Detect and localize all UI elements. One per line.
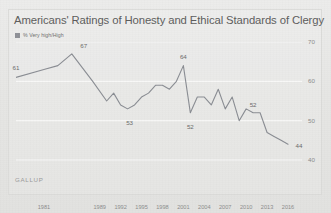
- data-point-label: 61: [13, 64, 20, 71]
- x-axis-tick-label: 2016: [282, 204, 294, 210]
- y-axis-tick-label: 60: [308, 77, 315, 84]
- x-axis-tick-label: 2013: [261, 204, 273, 210]
- plot-area: 70605040 1981198919921995199820012004200…: [16, 42, 288, 160]
- data-point-label: 52: [250, 101, 257, 108]
- data-point-label: 53: [126, 119, 133, 126]
- legend-swatch-icon: [15, 33, 20, 38]
- legend-label: % Very high/High: [23, 32, 64, 38]
- x-axis-tick-label: 1995: [135, 204, 147, 210]
- data-point-label: 44: [296, 142, 303, 149]
- y-axis-tick-label: 40: [308, 156, 315, 163]
- data-point-label: 67: [80, 42, 87, 49]
- x-axis-tick-label: 1992: [114, 204, 126, 210]
- x-axis-tick-label: 2001: [177, 204, 189, 210]
- x-axis-tick-label: 1989: [93, 204, 105, 210]
- x-axis-tick-label: 2007: [219, 204, 231, 210]
- x-axis-tick-label: 1981: [38, 204, 50, 210]
- x-axis-tick-label: 1998: [156, 204, 168, 210]
- chart-card: Americans' Ratings of Honesty and Ethica…: [0, 0, 331, 213]
- chart-legend: % Very high/High: [15, 32, 64, 38]
- chart-title: Americans' Ratings of Honesty and Ethica…: [14, 14, 314, 26]
- x-axis-tick-label: 2004: [198, 204, 210, 210]
- y-axis-tick-label: 70: [308, 38, 315, 45]
- gridlines: [16, 42, 302, 160]
- data-point-label: 64: [180, 53, 187, 60]
- source-attribution: GALLUP: [15, 176, 44, 183]
- data-point-label: 52: [187, 123, 194, 130]
- series-line: [16, 42, 306, 213]
- y-axis-tick-label: 50: [308, 117, 315, 124]
- data-series-clergy: [16, 54, 288, 144]
- x-axis-tick-label: 2010: [240, 204, 252, 210]
